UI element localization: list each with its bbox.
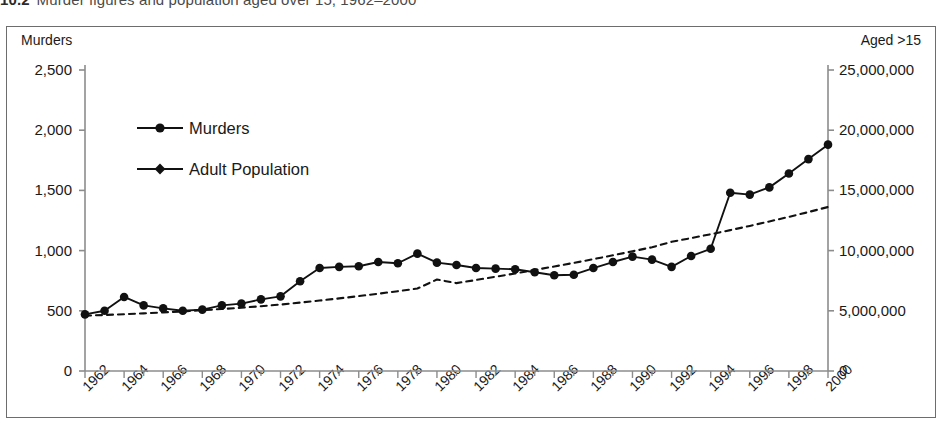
data-point <box>706 244 715 253</box>
data-point <box>374 258 383 267</box>
data-point <box>824 140 833 149</box>
data-point <box>100 307 109 316</box>
data-point <box>687 252 696 261</box>
figure-number: 10.2 <box>0 0 30 8</box>
data-point <box>472 264 481 273</box>
data-point <box>570 270 579 279</box>
data-point <box>296 277 305 286</box>
data-point <box>511 265 520 274</box>
data-point <box>394 259 403 268</box>
plot-area: MurdersAdult Population <box>7 27 937 419</box>
data-point <box>257 295 266 304</box>
legend-label: Adult Population <box>189 160 309 178</box>
data-point <box>120 293 129 302</box>
legend-marker <box>155 164 166 175</box>
data-point <box>335 263 344 272</box>
chart-frame: Murders Aged >15 05001,0001,5002,0002,50… <box>6 26 936 418</box>
data-point <box>589 264 598 273</box>
legend-marker <box>155 123 164 132</box>
data-point <box>628 252 637 261</box>
data-point <box>765 183 774 192</box>
data-point <box>667 263 676 272</box>
data-point <box>550 271 559 280</box>
data-point <box>433 258 442 267</box>
data-point <box>315 264 324 273</box>
data-point <box>491 264 500 273</box>
data-point <box>745 190 754 199</box>
figure-caption-text: Murder figures and population aged over … <box>37 0 417 8</box>
data-point <box>354 262 363 271</box>
data-point <box>276 292 285 301</box>
data-point <box>726 189 735 198</box>
data-point <box>139 301 148 310</box>
data-point <box>804 155 813 164</box>
figure-caption: 10.2Murder figures and population aged o… <box>0 0 942 13</box>
data-point <box>452 261 461 270</box>
data-point <box>609 258 618 267</box>
data-point <box>81 310 90 319</box>
chart-figure: 10.2Murder figures and population aged o… <box>0 0 942 421</box>
legend-label: Murders <box>189 119 250 137</box>
data-point <box>648 255 657 264</box>
legend: MurdersAdult Population <box>137 119 309 178</box>
data-point <box>413 249 422 258</box>
data-point <box>785 169 794 178</box>
